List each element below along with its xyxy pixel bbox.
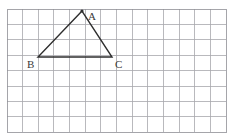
geometry-figure: A B C <box>0 0 236 140</box>
vertex-label-c: C <box>115 59 122 70</box>
figure-background <box>0 0 236 140</box>
vertex-label-a: A <box>88 11 96 22</box>
vertex-label-b: B <box>27 59 34 70</box>
figure-canvas <box>0 0 236 140</box>
vertex-a-point <box>80 9 83 12</box>
